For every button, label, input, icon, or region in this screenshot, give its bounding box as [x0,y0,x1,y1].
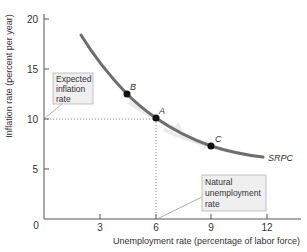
phillips-curve-chart: 20 15 10 5 0 3 6 9 12 Unemployment rate … [0,0,307,252]
point-a-label: A [158,106,165,116]
point-c-label: C [215,134,222,144]
expected-inflation-text-3: rate [56,94,71,104]
point-b-label: B [130,82,136,92]
srpc-curve [81,35,263,157]
x-tick-label: 3 [97,222,103,233]
expected-inflation-text-2: inflation [56,84,86,94]
srpc-label: SRPC [268,153,294,163]
natural-unemployment-text-2: unemployment [205,188,261,198]
y-tick-label: 15 [27,64,39,75]
point-c [208,143,215,150]
origin-label: 0 [33,220,39,231]
x-tick-label: 12 [261,222,273,233]
expected-inflation-leader-line [45,104,62,118]
x-tick-label: 6 [153,222,159,233]
expected-inflation-text-1: Expected [56,74,92,84]
y-tick-label: 10 [27,114,39,125]
natural-unemployment-text-1: Natural [205,177,233,187]
x-tick-label: 9 [208,222,214,233]
x-ticks [100,214,267,219]
y-tick-label: 20 [27,14,39,25]
y-axis-title: Inflation rate (percent per year) [4,14,14,138]
x-axis-title: Unemployment rate (percentage of labor f… [113,236,300,246]
y-tick-label: 5 [32,164,38,175]
natural-unemployment-leader-line [157,197,202,219]
movement-arrow-shading [163,128,212,149]
y-ticks [44,19,49,169]
natural-unemployment-text-3: rate [205,199,220,209]
